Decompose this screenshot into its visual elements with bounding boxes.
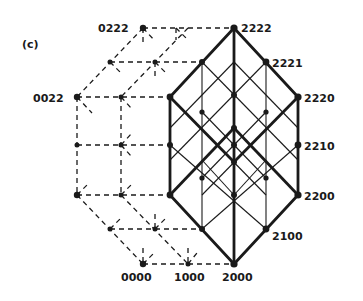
node-label-2221: 2221 (272, 57, 303, 70)
node-label-2210: 2210 (304, 140, 335, 153)
node-label-2200: 2200 (304, 190, 335, 203)
node-label-2222: 2222 (241, 22, 272, 35)
node-label-2000: 2000 (222, 271, 253, 284)
lattice-diagram: (c) 0222 0022 2222 2221 2220 2210 2200 2… (0, 0, 363, 301)
dashed-lattice-nodes (74, 25, 191, 267)
node-label-2220: 2220 (304, 92, 335, 105)
node-label-0222: 0222 (98, 22, 129, 35)
panel-label: (c) (22, 38, 39, 51)
node-label-2100: 2100 (272, 230, 303, 243)
node-label-0000: 0000 (121, 271, 152, 284)
node-label-0022: 0022 (33, 92, 64, 105)
node-label-1000: 1000 (174, 271, 205, 284)
